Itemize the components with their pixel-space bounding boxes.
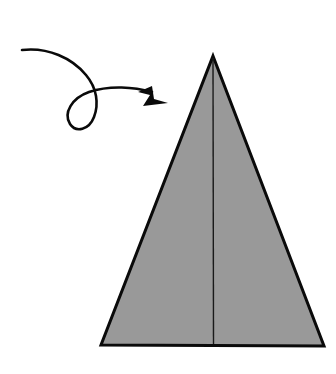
diagram-canvas: Origami fold step diagram xyxy=(0,0,336,374)
origami-figure xyxy=(0,0,336,374)
center-crease-line xyxy=(213,58,214,344)
